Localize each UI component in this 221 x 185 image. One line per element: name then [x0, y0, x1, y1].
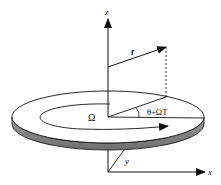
z-axis-label: z: [104, 7, 109, 17]
y-axis: [108, 150, 124, 172]
r-vector: [108, 47, 166, 67]
rotating-disk-diagram: z r Ω θ+ΩT y x: [0, 0, 221, 185]
y-axis-label: y: [124, 156, 129, 166]
x-axis-label: x: [207, 167, 212, 177]
r-vector-label: r: [131, 47, 135, 57]
omega-label: Ω: [88, 112, 95, 123]
angle-label: θ+ΩT: [147, 107, 168, 117]
